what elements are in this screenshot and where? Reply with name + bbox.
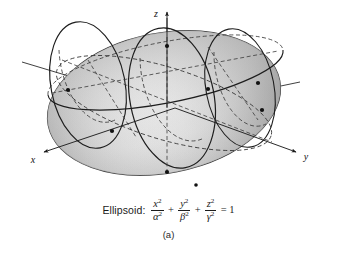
term-z: z2 γ2 [205, 198, 217, 222]
term-x-denominator: α2 [151, 211, 164, 223]
vertex-marker [260, 108, 264, 112]
figure-sub-label: (a) [0, 229, 337, 240]
plus-operator-2: + [195, 205, 201, 216]
vertex-marker [256, 81, 260, 85]
term-y: y2 β2 [178, 198, 191, 222]
vertex-marker [206, 87, 210, 91]
ellipsoid-figure: x y z Ellipsoid: x2 α2 + y2 β2 + z2 γ2 =… [0, 0, 337, 259]
x-axis-label: x [30, 154, 36, 165]
term-x: x2 α2 [151, 198, 164, 222]
vertex-marker [66, 88, 70, 92]
term-z-denominator: γ2 [205, 211, 217, 223]
caption-title: Ellipsoid: [102, 205, 145, 216]
equation-result: = 1 [221, 205, 235, 216]
vertex-marker [110, 129, 114, 133]
caption: Ellipsoid: x2 α2 + y2 β2 + z2 γ2 = 1 (a) [0, 198, 337, 240]
vertex-marker [194, 183, 198, 187]
ellipsoid-equation: Ellipsoid: x2 α2 + y2 β2 + z2 γ2 = 1 [102, 198, 234, 222]
y-axis-label: y [303, 151, 309, 162]
vertex-marker [165, 170, 169, 174]
ellipsoid-body [35, 12, 293, 194]
vertex-marker [165, 44, 169, 48]
z-axis-label: z [153, 8, 158, 19]
term-y-denominator: β2 [178, 211, 191, 223]
plus-operator-1: + [168, 205, 174, 216]
ellipsoid-shade-top [35, 12, 293, 194]
